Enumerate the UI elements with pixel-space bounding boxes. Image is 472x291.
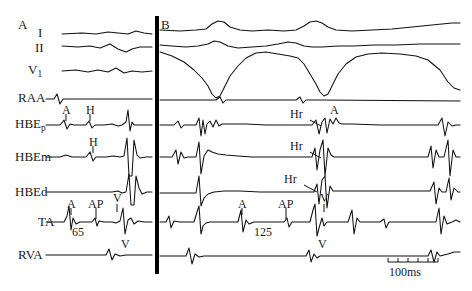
annotation-hbed-hr-2: Hr: [284, 173, 297, 185]
trace-RAA-panelB: [160, 97, 460, 103]
annotation-interval-65: 65: [72, 226, 84, 238]
scale-bar-marks: [388, 258, 438, 262]
annotation-rva-v-2: V: [318, 238, 327, 250]
annotation-ta-ap-2: AP: [278, 198, 293, 210]
trace-HBEm-panelB: [160, 140, 460, 176]
annotation-ta-v-1: V: [113, 192, 122, 204]
channel-label-RAA: RAA: [18, 91, 45, 104]
channel-label-TA: TA: [38, 215, 54, 228]
trace-RVA-panelA: [46, 249, 152, 260]
annotation-rva-v-1: V: [121, 238, 130, 250]
panel-divider: [155, 16, 159, 274]
scale-bar-label: 100ms: [389, 266, 421, 278]
trace-HBEd-panelB: [160, 176, 460, 208]
panel-label-B: B: [161, 18, 170, 31]
annotation-hbem-h-1: H: [89, 136, 98, 148]
annotation-hbep-h-1: H: [86, 104, 95, 116]
annotation-ta-a-1: A: [67, 198, 76, 210]
waveform-canvas: [0, 0, 472, 291]
annotation-ta-v-2: V: [320, 192, 329, 204]
panel-label-A: A: [18, 18, 27, 31]
lead-label-I: I: [38, 26, 42, 39]
trace-lead-V1-panelA: [62, 68, 152, 73]
trace-lead-I-panelA: [62, 31, 152, 34]
trace-lead-V1-panelB: [160, 52, 460, 98]
channel-label-HBEp: HBEp: [15, 117, 46, 133]
trace-lead-II-panelB: [160, 41, 460, 48]
annotation-hbep-a-1: A: [62, 104, 71, 116]
lead-label-V1: V1: [28, 63, 42, 79]
lead-label-II: II: [35, 41, 44, 54]
channel-label-HBEd: HBEd: [15, 185, 48, 198]
channel-label-RVA: RVA: [18, 248, 43, 261]
annotation-hbep-a-2: A: [330, 104, 339, 116]
channel-label-HBEm: HBEm: [15, 150, 51, 163]
annotation-interval-125: 125: [254, 226, 272, 238]
annotation-ta-ap-1: AP: [88, 198, 103, 210]
electrophysiology-figure: A B I II V1 RAA HBEp HBEm HBEd TA RVA A …: [0, 0, 472, 291]
annotation-hbem-hr-2: Hr: [290, 140, 303, 152]
trace-HBEp-panelB: [160, 118, 460, 136]
annotation-hbep-hr-2: Hr: [290, 108, 303, 120]
trace-lead-I-panelB: [160, 21, 460, 31]
trace-lead-II-panelA: [62, 44, 152, 52]
annotation-ta-a-2: A: [238, 198, 247, 210]
trace-TA-panelB: [160, 204, 460, 236]
trace-HBEm-panelA: [46, 138, 152, 176]
